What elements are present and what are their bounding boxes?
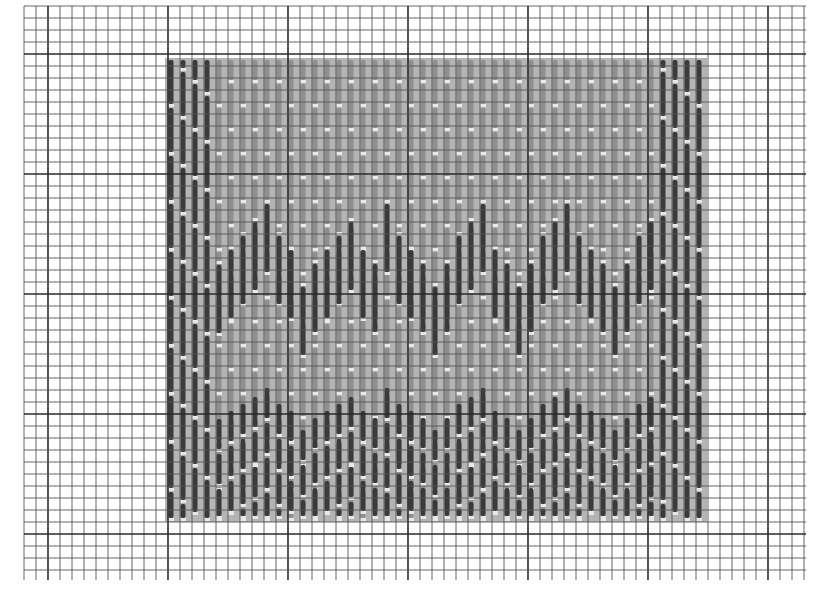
field-stitch [481, 108, 486, 152]
field-stitch [445, 60, 450, 80]
lower-stitch [553, 502, 558, 516]
lower-stitch [529, 418, 534, 448]
field-stitch [253, 84, 258, 128]
field-stitch [649, 60, 654, 104]
lower-stitch [577, 404, 582, 434]
lower-stitch [277, 404, 282, 434]
lower-stitch [373, 453, 378, 483]
border-stitch [181, 456, 186, 500]
accent-stitch [553, 222, 558, 290]
field-stitch [241, 348, 246, 392]
field-stitch [553, 348, 558, 392]
field-stitch [277, 84, 282, 128]
accent-stitch [469, 222, 474, 290]
border-stitch [193, 420, 198, 464]
border-stitch [193, 60, 198, 80]
border-stitch [181, 72, 186, 116]
field-stitch [277, 60, 282, 80]
field-stitch [253, 60, 258, 80]
field-stitch [493, 372, 498, 416]
lower-stitch [253, 432, 258, 462]
border-stitch [193, 180, 198, 224]
lower-stitch [541, 439, 546, 469]
lower-stitch [529, 488, 534, 516]
field-stitch [409, 108, 414, 152]
lower-stitch [469, 397, 474, 427]
field-stitch [649, 300, 654, 344]
accent-stitch [313, 264, 318, 332]
lower-stitch [313, 453, 318, 483]
lower-stitch [469, 502, 474, 516]
border-stitch [685, 432, 690, 476]
field-stitch [325, 84, 330, 128]
field-stitch [313, 204, 318, 248]
field-stitch [397, 180, 402, 224]
field-stitch [553, 300, 558, 344]
lower-stitch [217, 419, 222, 449]
accent-stitch [349, 222, 354, 290]
lower-stitch [289, 446, 294, 476]
field-stitch [613, 372, 618, 416]
field-stitch [289, 156, 294, 200]
lower-stitch [517, 430, 522, 460]
field-stitch [421, 60, 426, 80]
field-stitch [277, 132, 282, 176]
field-stitch [493, 132, 498, 176]
border-stitch [181, 504, 186, 518]
border-stitch [193, 132, 198, 176]
field-stitch [505, 204, 510, 248]
border-stitch [181, 60, 186, 68]
field-stitch [253, 180, 258, 224]
border-stitch [673, 180, 678, 224]
lower-stitch [397, 474, 402, 504]
accent-stitch [229, 250, 234, 318]
border-stitch [673, 420, 678, 464]
field-stitch [373, 180, 378, 224]
border-stitch [673, 372, 678, 416]
field-stitch [457, 108, 462, 152]
field-stitch [505, 108, 510, 152]
field-stitch [649, 108, 654, 152]
field-stitch [241, 60, 246, 104]
field-stitch [313, 108, 318, 152]
border-stitch [673, 228, 678, 272]
field-stitch [301, 228, 306, 272]
lower-stitch [553, 397, 558, 427]
accent-stitch [649, 222, 654, 290]
lower-stitch [457, 474, 462, 504]
field-stitch [445, 180, 450, 224]
field-stitch [637, 180, 642, 224]
border-stitch [661, 264, 666, 308]
lower-stitch [385, 458, 390, 488]
accent-stitch [601, 264, 606, 332]
lower-stitch [493, 446, 498, 476]
border-stitch [661, 72, 666, 116]
field-stitch [325, 180, 330, 224]
accent-stitch [421, 264, 426, 332]
lower-stitch [601, 418, 606, 448]
field-stitch [613, 60, 618, 80]
field-stitch [301, 84, 306, 128]
accent-stitch [493, 250, 498, 318]
field-stitch [265, 156, 270, 200]
field-stitch [517, 84, 522, 128]
border-stitch [193, 228, 198, 272]
border-stitch [697, 108, 702, 152]
lower-stitch [541, 404, 546, 434]
field-stitch [217, 156, 222, 200]
field-stitch [229, 132, 234, 176]
field-stitch [229, 60, 234, 80]
lower-stitch [601, 453, 606, 483]
field-stitch [361, 108, 366, 152]
lower-stitch [553, 467, 558, 497]
field-stitch [553, 156, 558, 200]
field-stitch [613, 228, 618, 272]
border-stitch [685, 192, 690, 236]
accent-stitch [373, 264, 378, 332]
field-stitch [313, 60, 318, 104]
border-stitch [169, 492, 174, 518]
lower-stitch [241, 404, 246, 434]
border-stitch [193, 468, 198, 512]
field-stitch [433, 60, 438, 104]
field-stitch [541, 132, 546, 176]
